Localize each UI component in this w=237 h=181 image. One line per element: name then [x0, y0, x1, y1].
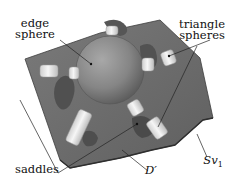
label-sv1: Sv1: [198, 155, 228, 170]
label-edge-sphere-line2: sphere: [15, 29, 55, 40]
label-saddles: saddles: [14, 164, 60, 175]
label-triangle-spheres: triangle spheres: [174, 19, 230, 41]
label-triangle-spheres-line2: spheres: [174, 30, 230, 41]
edge-sphere: [76, 36, 144, 104]
label-edge-sphere: edge sphere: [15, 18, 55, 40]
label-sv1-main: Sv: [203, 153, 217, 167]
label-sv1-sub: 1: [218, 160, 223, 169]
label-d-prime: D′: [142, 165, 160, 176]
